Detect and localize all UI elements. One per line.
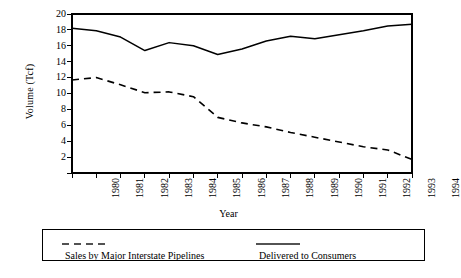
y-axis-ticks bbox=[67, 14, 72, 173]
legend-label: Sales by Major Interstate Pipelines bbox=[65, 250, 204, 261]
legend-item-delivered-to-consumers: Delivered to Consumers bbox=[255, 239, 356, 261]
x-tick-label: 1988 bbox=[305, 178, 315, 212]
x-tick-label: 1984 bbox=[208, 178, 218, 212]
legend-solid-line-swatch bbox=[255, 239, 301, 249]
x-tick-label: 1980 bbox=[111, 178, 121, 212]
x-tick-label: 1986 bbox=[257, 178, 267, 212]
series-line-delivered-to-consumers bbox=[72, 24, 412, 54]
x-tick-label: 1985 bbox=[232, 178, 242, 212]
plot-area bbox=[0, 0, 457, 200]
legend-label: Delivered to Consumers bbox=[259, 250, 356, 261]
x-tick-label: 1987 bbox=[281, 178, 291, 212]
legend-item-sales-by-major-interstate-pipelines: Sales by Major Interstate Pipelines bbox=[61, 239, 204, 261]
x-axis-label: Year bbox=[0, 208, 457, 219]
x-tick-label: 1991 bbox=[378, 178, 388, 212]
x-tick-label: 1994 bbox=[451, 178, 461, 212]
x-tick-label: 1993 bbox=[427, 178, 437, 212]
x-tick-label: 1981 bbox=[135, 178, 145, 212]
x-tick-label: 1989 bbox=[330, 178, 340, 212]
legend-dashed-line-swatch bbox=[61, 239, 107, 249]
x-tick-label: 1992 bbox=[402, 178, 412, 212]
x-tick-label: 1990 bbox=[354, 178, 364, 212]
chart-legend: Sales by Major Interstate Pipelines Deli… bbox=[42, 229, 425, 261]
series-line-sales-by-major-interstate-pipelines bbox=[72, 78, 412, 160]
x-tick-label: 1982 bbox=[160, 178, 170, 212]
x-tick-label: 1983 bbox=[184, 178, 194, 212]
